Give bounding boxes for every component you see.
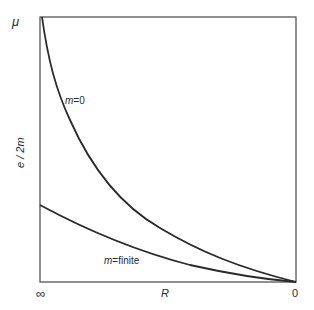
y-axis-label: e / 2m — [14, 137, 26, 168]
curve-m-zero — [42, 17, 296, 282]
x-axis-label: R — [161, 287, 169, 299]
curve-m-finite-label: m=finite — [104, 255, 140, 266]
plot-frame — [40, 17, 296, 282]
x-left-tick-label: ∞ — [36, 286, 45, 301]
y-top-label: μ — [11, 14, 19, 29]
chart-canvas: μ e / 2m R ∞ 0 m=0 m=finite — [0, 0, 314, 310]
curve-m-zero-label: m=0 — [65, 95, 85, 106]
x-right-tick-label: 0 — [292, 287, 298, 299]
